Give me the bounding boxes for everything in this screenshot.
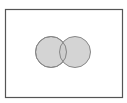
venn-diagram bbox=[0, 0, 127, 103]
set-b-circle bbox=[60, 37, 91, 68]
